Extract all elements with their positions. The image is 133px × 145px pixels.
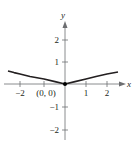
x-axis-arrow-icon	[119, 82, 126, 87]
point-label: (0, 0)	[36, 88, 56, 98]
y-tick-label-neg1: −1	[49, 102, 59, 112]
origin-point	[63, 82, 67, 86]
y-axis	[63, 21, 68, 140]
x-tick-label-neg2: −2	[15, 88, 25, 98]
x-axis-label: x	[126, 79, 131, 89]
y-tick-label-2: 2	[55, 35, 60, 45]
x-tick-label-2: 2	[105, 88, 110, 98]
chart: x y −2 (0, 0) 1 2 2 1 −1 −2	[0, 0, 133, 145]
function-curve	[8, 71, 118, 84]
y-tick-label-neg2: −2	[49, 125, 59, 135]
y-axis-label: y	[60, 10, 65, 20]
x-tick-label-1: 1	[84, 88, 89, 98]
y-tick-label-1: 1	[55, 57, 60, 67]
y-axis-arrow-icon	[63, 21, 68, 28]
